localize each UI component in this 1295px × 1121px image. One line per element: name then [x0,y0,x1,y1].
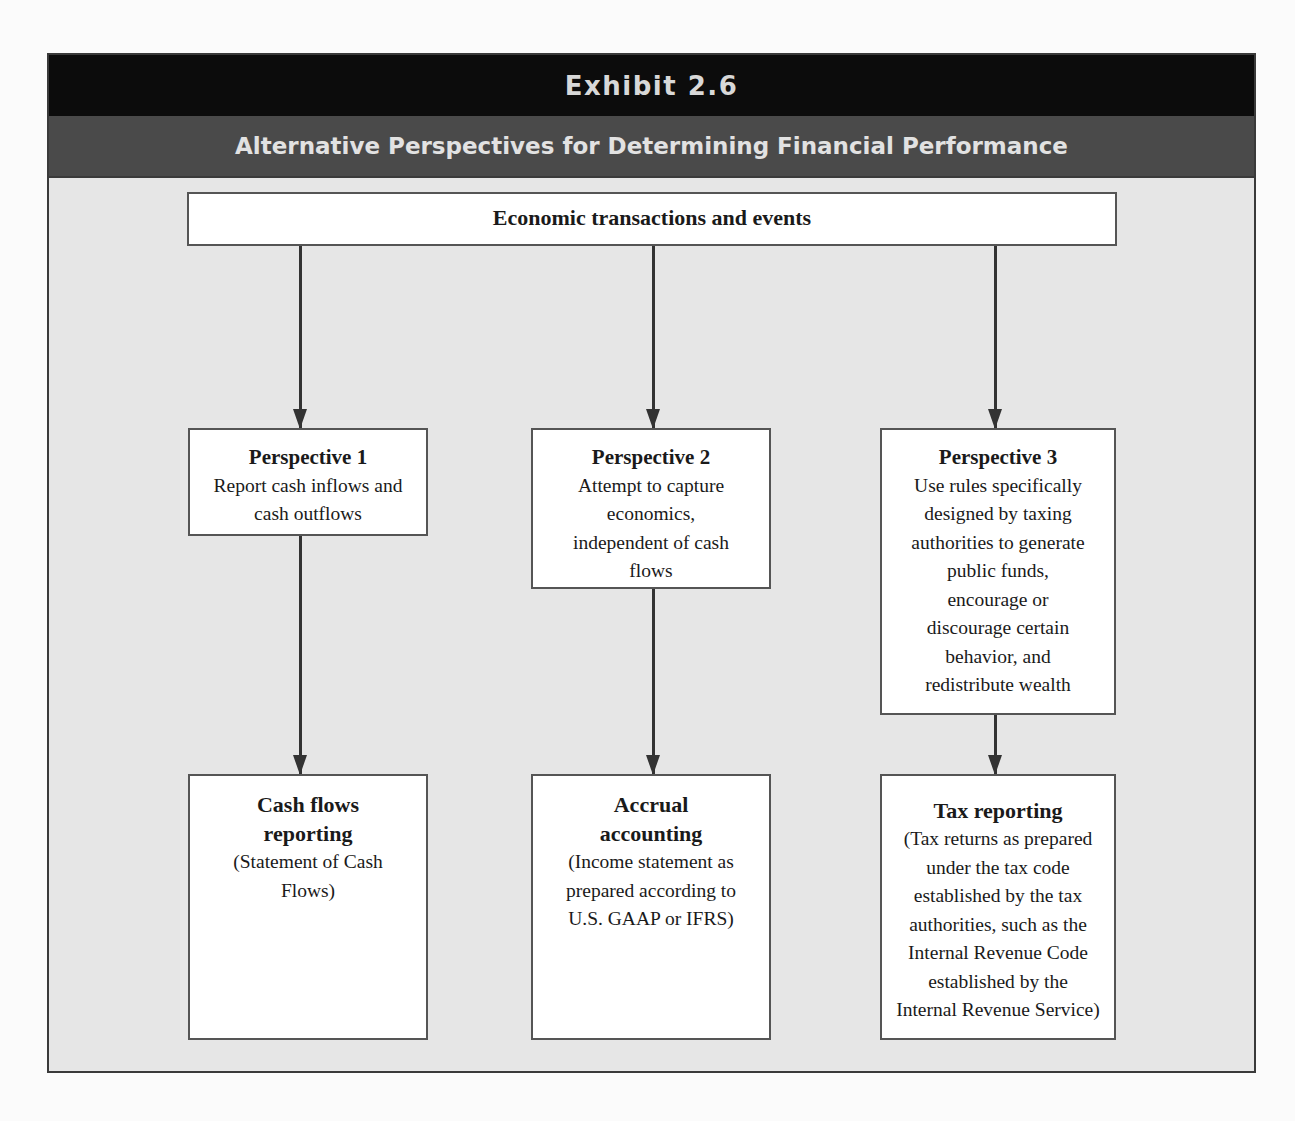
exhibit-label: Exhibit 2.6 [49,55,1254,116]
tax-reporting-line: authorities, such as the [882,911,1114,940]
perspective-3-line: redistribute wealth [882,671,1114,700]
accrual-line: U.S. GAAP or IFRS) [533,905,769,934]
perspective-1-line: cash outflows [190,500,426,529]
source-box: Economic transactions and events [187,192,1117,246]
arrow-source-to-p1 [299,246,302,428]
perspective-2-line: Attempt to capture [533,472,769,501]
tax-reporting-line: Internal Revenue Service) [878,996,1118,1025]
perspective-1-heading: Perspective 1 [190,443,426,472]
arrow-source-to-p3 [994,246,997,428]
arrow-p1-to-cash-flows [299,536,302,774]
accrual-accounting-box: Accrual accounting (Income statement as … [531,774,771,1040]
tax-reporting-line: (Tax returns as prepared [882,825,1114,854]
arrow-p3-to-tax [994,715,997,774]
perspective-3-box: Perspective 3 Use rules specifically des… [880,428,1116,715]
tax-reporting-line: established by the tax [882,882,1114,911]
tax-reporting-heading: Tax reporting [882,796,1114,825]
exhibit-title: Alternative Perspectives for Determining… [49,116,1254,178]
cash-flows-heading: Cash flows [190,790,426,819]
perspective-1-box: Perspective 1 Report cash inflows and ca… [188,428,428,536]
accrual-heading: accounting [533,819,769,848]
tax-reporting-line: under the tax code [882,854,1114,883]
arrow-source-to-p2 [652,246,655,428]
arrow-p2-to-accrual [652,589,655,774]
perspective-3-line: designed by taxing [882,500,1114,529]
perspective-3-line: behavior, and [882,643,1114,672]
perspective-3-line: discourage certain [882,614,1114,643]
perspective-3-line: authorities to generate [882,529,1114,558]
accrual-line: (Income statement as [533,848,769,877]
cash-flows-line: (Statement of Cash [190,848,426,877]
perspective-2-box: Perspective 2 Attempt to capture economi… [531,428,771,589]
perspective-2-line: flows [533,557,769,586]
perspective-1-line: Report cash inflows and [190,472,426,501]
perspective-2-heading: Perspective 2 [533,443,769,472]
accrual-line: prepared according to [533,877,769,906]
perspective-3-line: encourage or [882,586,1114,615]
perspective-2-line: economics, [533,500,769,529]
perspective-3-heading: Perspective 3 [882,443,1114,472]
cash-flows-reporting-box: Cash flows reporting (Statement of Cash … [188,774,428,1040]
cash-flows-line: Flows) [190,877,426,906]
cash-flows-heading: reporting [190,819,426,848]
tax-reporting-line: Internal Revenue Code [882,939,1114,968]
source-label: Economic transactions and events [493,205,811,230]
perspective-3-line: Use rules specifically [882,472,1114,501]
tax-reporting-line: established by the [882,968,1114,997]
perspective-3-line: public funds, [882,557,1114,586]
accrual-heading: Accrual [533,790,769,819]
tax-reporting-box: Tax reporting (Tax returns as prepared u… [880,774,1116,1040]
perspective-2-line: independent of cash [533,529,769,558]
